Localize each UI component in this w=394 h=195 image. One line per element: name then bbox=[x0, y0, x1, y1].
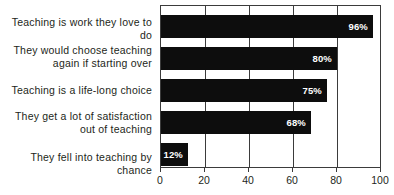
bar-series: 96% 80% 75% 68% 12% bbox=[161, 6, 380, 167]
bar-1[interactable]: 80% bbox=[161, 47, 337, 70]
plot-area: 96% 80% 75% 68% 12% bbox=[160, 5, 381, 168]
bar-3[interactable]: 68% bbox=[161, 111, 311, 134]
x-tick-label-40: 40 bbox=[242, 174, 254, 186]
x-tick-label-60: 60 bbox=[286, 174, 298, 186]
x-tick-label-0: 0 bbox=[157, 174, 163, 186]
x-tick-mark-40 bbox=[248, 168, 249, 172]
x-tick-mark-20 bbox=[204, 168, 205, 172]
bar-value-4: 12% bbox=[163, 149, 188, 160]
x-tick-mark-100 bbox=[380, 168, 381, 172]
x-tick-label-20: 20 bbox=[198, 174, 210, 186]
bar-4[interactable]: 12% bbox=[161, 143, 188, 166]
bar-value-3: 68% bbox=[286, 117, 311, 128]
category-label-1: They would choose teaching again if star… bbox=[0, 44, 152, 69]
bar-value-0: 96% bbox=[348, 21, 373, 32]
category-label-0: Teaching is work they love to do bbox=[0, 16, 152, 41]
x-axis: 0 20 40 60 80 100 bbox=[160, 168, 381, 195]
x-tick-label-100: 100 bbox=[371, 174, 389, 186]
bar-0[interactable]: 96% bbox=[161, 15, 373, 38]
bar-value-1: 80% bbox=[312, 53, 337, 64]
bar-chart-screenshot: Teaching is work they love to do They wo… bbox=[0, 0, 394, 195]
x-tick-mark-0 bbox=[160, 168, 161, 172]
category-label-4: They fell into teaching by chance bbox=[0, 151, 152, 176]
x-tick-label-80: 80 bbox=[330, 174, 342, 186]
bar-value-2: 75% bbox=[302, 85, 327, 96]
x-tick-mark-80 bbox=[336, 168, 337, 172]
bar-2[interactable]: 75% bbox=[161, 79, 327, 102]
x-tick-mark-60 bbox=[292, 168, 293, 172]
category-label-2: Teaching is a life-long choice bbox=[0, 84, 152, 97]
category-label-column: Teaching is work they love to do They wo… bbox=[0, 5, 152, 168]
category-label-3: They get a lot of satisfaction out of te… bbox=[0, 110, 152, 135]
